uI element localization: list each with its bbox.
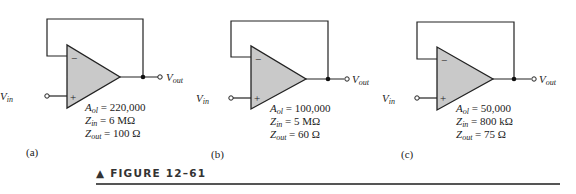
triangle-marker-icon: ▲ <box>96 167 105 179</box>
circuit-label: (c) <box>401 148 414 161</box>
output-terminal <box>532 77 536 81</box>
vin-label: Vin <box>196 92 209 106</box>
zin-spec: Zin = 6 MΩ <box>85 114 135 128</box>
zin-spec: Zin = 800 kΩ <box>456 115 513 129</box>
output-terminal <box>158 75 162 79</box>
circuit-label: (a) <box>26 146 39 159</box>
vout-label: Vout <box>166 71 184 85</box>
aol-spec: Aol = 220,000 <box>84 101 146 115</box>
zout-spec: Zout = 75 Ω <box>456 128 506 142</box>
circuit-a: − + Vin Vout Aol = 220,000 Zin = 6 MΩ Zo… <box>0 19 184 159</box>
vin-label: Vin <box>382 92 395 106</box>
inverting-input-sign: − <box>71 52 77 64</box>
zin-spec: Zin = 5 MΩ <box>270 115 320 129</box>
noninverting-input-sign: + <box>440 92 446 104</box>
circuit-b: − + Vin Vout Aol = 100,000 Zin = 5 MΩ Zo… <box>196 21 370 161</box>
noninverting-input-sign: + <box>70 91 76 103</box>
aol-spec: Aol = 100,000 <box>269 102 331 116</box>
vout-label: Vout <box>352 73 370 87</box>
zout-spec: Zout = 60 Ω <box>270 128 320 142</box>
figure-canvas: − + Vin Vout Aol = 220,000 Zin = 6 MΩ Zo… <box>0 0 576 194</box>
output-terminal <box>345 77 349 81</box>
output-node-dot <box>326 77 331 82</box>
caption-rule <box>96 183 560 185</box>
input-terminal <box>229 96 233 100</box>
aol-spec: Aol = 50,000 <box>455 102 511 116</box>
circuit-label: (b) <box>211 148 224 161</box>
vout-label: Vout <box>539 73 557 87</box>
input-terminal <box>45 94 49 98</box>
circuit-c: − + Vin Vout Aol = 50,000 Zin = 800 kΩ Z… <box>382 22 557 161</box>
vin-label: Vin <box>0 90 13 104</box>
noninverting-input-sign: + <box>254 92 260 104</box>
inverting-input-sign: − <box>441 54 447 66</box>
inverting-input-sign: − <box>255 53 261 65</box>
output-node-dot <box>141 75 146 80</box>
zout-spec: Zout = 100 Ω <box>85 127 141 141</box>
figure-caption: ▲ FIGURE 12–61 <box>96 167 206 179</box>
figure-number: FIGURE 12–61 <box>110 167 206 179</box>
output-node-dot <box>512 77 517 82</box>
input-terminal <box>415 96 419 100</box>
